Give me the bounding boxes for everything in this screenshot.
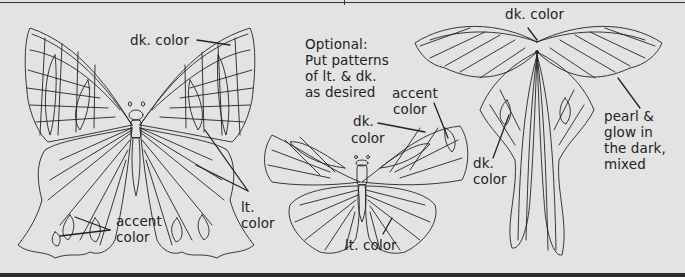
small-lt-color-label: lt. color xyxy=(345,237,397,253)
luna-pearl-label-1: pearl & xyxy=(604,108,654,124)
luna-dk-label-1: dk. xyxy=(473,155,494,171)
luna-pearl-label-2: glow in xyxy=(604,124,653,140)
optional-note-line-3: of lt. & dk. xyxy=(305,68,377,84)
small-dk-label-1: dk. xyxy=(353,113,374,129)
swallowtail-lt-color-label-2: color xyxy=(241,215,275,231)
optional-note-line-4: as desired xyxy=(305,84,375,100)
luna-dk-label-2: color xyxy=(473,171,507,187)
optional-note-line-1: Optional: xyxy=(305,36,368,52)
frame-bottom-border xyxy=(0,273,685,277)
small-accent-label-2: color xyxy=(393,101,427,117)
luna-dk-color-top-label: dk. color xyxy=(505,6,564,22)
small-accent-label-1: accent xyxy=(392,85,438,101)
luna-pearl-label-3: the dark, xyxy=(604,140,666,156)
swallowtail-lt-color-label-1: lt. xyxy=(241,199,255,215)
optional-note-line-2: Put patterns xyxy=(305,52,389,68)
swallowtail-accent-label-1: accent xyxy=(116,213,162,229)
swallowtail-dk-color-label: dk. color xyxy=(130,32,189,48)
luna-pearl-label-4: mixed xyxy=(604,156,646,172)
swallowtail-accent-label-2: color xyxy=(116,229,150,245)
small-dk-label-2: color xyxy=(351,130,385,146)
